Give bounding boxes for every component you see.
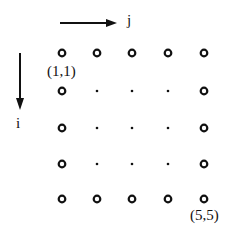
grid-points: [59, 50, 208, 203]
boundary-point-icon: [94, 196, 101, 203]
boundary-point-icon: [201, 125, 208, 132]
boundary-point-icon: [201, 88, 208, 95]
boundary-point-icon: [165, 50, 172, 57]
interior-point-icon: [131, 90, 134, 93]
i-arrow-icon: [16, 53, 24, 110]
interior-point-icon: [131, 163, 134, 166]
boundary-point-icon: [129, 50, 136, 57]
boundary-point-icon: [59, 88, 66, 95]
interior-point-icon: [167, 127, 170, 130]
interior-point-icon: [167, 90, 170, 93]
boundary-point-icon: [201, 50, 208, 57]
boundary-point-icon: [201, 196, 208, 203]
j-arrow-icon: [60, 19, 117, 27]
interior-point-icon: [131, 127, 134, 130]
interior-point-icon: [96, 127, 99, 130]
interior-point-icon: [96, 90, 99, 93]
corner-label-1-1: (1,1): [47, 64, 76, 79]
boundary-point-icon: [165, 196, 172, 203]
boundary-point-icon: [201, 161, 208, 168]
boundary-point-icon: [129, 196, 136, 203]
grid-canvas: [0, 0, 232, 233]
boundary-point-icon: [59, 125, 66, 132]
i-axis-label: i: [16, 116, 20, 131]
interior-point-icon: [96, 163, 99, 166]
j-axis-label: j: [127, 13, 131, 28]
corner-label-5-5: (5,5): [190, 208, 219, 223]
interior-point-icon: [167, 163, 170, 166]
boundary-point-icon: [94, 50, 101, 57]
boundary-point-icon: [59, 50, 66, 57]
boundary-point-icon: [59, 196, 66, 203]
grid-diagram: j i (1,1) (5,5): [0, 0, 232, 233]
boundary-point-icon: [59, 161, 66, 168]
